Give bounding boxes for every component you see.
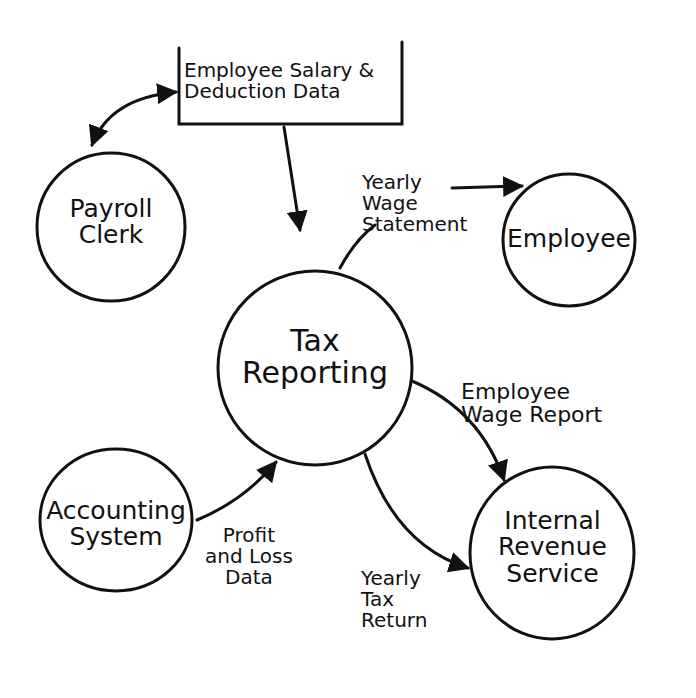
entity-label-irs: Internal Revenue Service [475,508,630,587]
flow-label-profit-loss-data: Profit and Loss Data [205,525,293,588]
flow-label-employee-wage-report: Employee Wage Report [461,380,602,426]
data-flow-diagram: Employee Salary & Deduction Data Tax Rep… [0,0,696,698]
flow-label-yearly-wage-statement: Yearly Wage Statement [362,172,467,235]
flow-store-process [284,127,300,230]
flow-process-irs-return [365,454,468,568]
entity-label-employee: Employee [503,226,635,252]
process-label: Tax Reporting [235,325,395,388]
entity-label-payroll-clerk: Payroll Clerk [41,196,181,249]
entity-label-accounting-system: Accounting System [40,498,192,551]
flow-label-yearly-tax-return: Yearly Tax Return [361,568,427,631]
flow-clerk-store [92,92,176,145]
data-store-label: Employee Salary & Deduction Data [184,60,374,102]
flow-accounting-process [197,462,276,520]
